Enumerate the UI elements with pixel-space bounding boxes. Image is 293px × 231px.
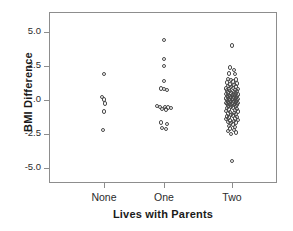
y-tick-mark — [44, 66, 49, 67]
plot-area — [49, 12, 277, 183]
y-tick-mark — [44, 100, 49, 101]
x-tick-label-two: Two — [197, 191, 267, 203]
bmi-difference-scatter-figure: 5.02.5.0-2.5-5.0 BMI Difference NoneOneT… — [0, 0, 293, 231]
x-tick-label-one: One — [129, 191, 199, 203]
y-tick-mark — [44, 32, 49, 33]
x-tick-mark — [104, 183, 105, 188]
y-tick-mark — [44, 134, 49, 135]
x-tick-mark — [164, 183, 165, 188]
y-tick-mark — [44, 168, 49, 169]
x-axis-title: Lives with Parents — [49, 208, 277, 220]
x-tick-mark — [232, 183, 233, 188]
y-axis-title: BMI Difference — [22, 17, 34, 167]
